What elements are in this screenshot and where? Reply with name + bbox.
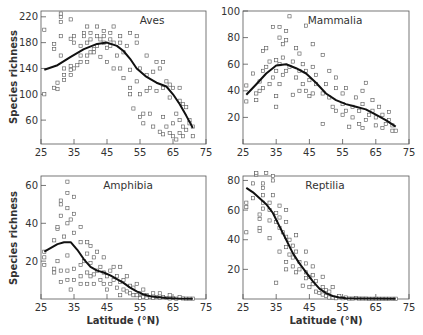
panel-aves: 25354555657560100140180220 xyxy=(19,11,212,158)
data-point xyxy=(261,69,264,72)
data-point xyxy=(391,129,394,132)
data-point xyxy=(66,180,69,183)
y-tick-label: 60 xyxy=(25,180,38,191)
x-tick-label: 65 xyxy=(167,147,180,158)
data-point xyxy=(43,93,46,96)
data-point xyxy=(251,182,254,185)
data-point xyxy=(122,288,125,291)
data-point xyxy=(265,47,268,50)
data-point xyxy=(387,110,390,113)
panel-mammalia: 25354555657520406080100 xyxy=(221,6,415,159)
data-point xyxy=(328,69,331,72)
data-point xyxy=(63,235,66,238)
data-point xyxy=(152,125,155,128)
x-tick-label: 65 xyxy=(369,302,382,313)
data-point xyxy=(171,86,174,89)
data-point xyxy=(92,273,95,276)
data-point xyxy=(288,238,291,241)
data-point xyxy=(175,112,178,115)
data-point xyxy=(278,204,281,207)
data-point xyxy=(56,81,59,84)
data-point xyxy=(371,99,374,102)
data-point xyxy=(119,67,122,70)
data-point xyxy=(275,95,278,98)
data-point xyxy=(158,130,161,133)
data-point xyxy=(268,219,271,222)
data-point xyxy=(361,103,364,106)
data-point xyxy=(66,207,69,210)
data-point xyxy=(245,206,248,209)
data-point xyxy=(132,107,135,110)
data-point xyxy=(79,263,82,266)
panel-title-mammalia: Mammalia xyxy=(308,14,363,26)
y-tick-label: 80 xyxy=(227,32,240,43)
data-point xyxy=(291,244,294,247)
data-point xyxy=(102,256,105,259)
data-point xyxy=(135,41,138,44)
data-point xyxy=(304,277,307,280)
data-point xyxy=(59,214,62,217)
data-point xyxy=(381,126,384,129)
data-point xyxy=(112,25,115,28)
y-tick-label: 220 xyxy=(19,11,38,22)
y-tick-label: 140 xyxy=(19,63,38,74)
data-point xyxy=(304,262,307,265)
data-point xyxy=(86,271,89,274)
data-point xyxy=(69,288,72,291)
data-point xyxy=(86,41,89,44)
x-tick-label: 75 xyxy=(403,147,416,158)
data-point xyxy=(102,29,105,32)
data-point xyxy=(298,89,301,92)
y-axis-label-bottom: Species richness xyxy=(8,191,19,285)
x-tick-label: 55 xyxy=(134,147,147,158)
x-tick-label: 65 xyxy=(369,147,382,158)
data-point xyxy=(261,87,264,90)
data-point xyxy=(191,135,194,138)
data-point xyxy=(158,67,161,70)
data-point xyxy=(314,290,317,293)
x-tick-label: 55 xyxy=(336,147,349,158)
data-point xyxy=(89,275,92,278)
data-point xyxy=(258,213,261,216)
data-point xyxy=(89,244,92,247)
data-point xyxy=(255,171,258,174)
data-point xyxy=(281,73,284,76)
data-point xyxy=(119,35,122,38)
data-point xyxy=(361,126,364,129)
data-point xyxy=(168,131,171,134)
data-point xyxy=(261,207,264,210)
data-point xyxy=(92,47,95,50)
data-point xyxy=(298,52,301,55)
data-point xyxy=(56,260,59,263)
data-point xyxy=(285,260,288,263)
data-point xyxy=(281,43,284,46)
data-point xyxy=(268,237,271,240)
data-point xyxy=(105,46,108,49)
data-point xyxy=(255,92,258,95)
x-tick-label: 65 xyxy=(167,302,180,313)
data-point xyxy=(275,59,278,62)
data-point xyxy=(308,286,311,289)
data-point xyxy=(181,125,184,128)
data-point xyxy=(364,118,367,121)
data-point xyxy=(119,265,122,268)
data-point xyxy=(105,288,108,291)
data-point xyxy=(341,113,344,116)
data-point xyxy=(43,256,46,259)
data-point xyxy=(321,293,324,296)
data-point xyxy=(331,286,334,289)
data-point xyxy=(43,263,46,266)
data-point xyxy=(59,269,62,272)
data-point xyxy=(99,38,102,41)
data-point xyxy=(69,64,72,67)
data-point xyxy=(72,41,75,44)
data-point xyxy=(374,124,377,127)
x-axis-label-right: Latitude (°N) xyxy=(289,315,362,326)
data-point xyxy=(66,254,69,257)
data-point xyxy=(181,135,184,138)
data-point xyxy=(285,29,288,32)
data-point xyxy=(155,60,158,63)
data-point xyxy=(258,226,261,229)
data-point xyxy=(109,38,112,41)
data-point xyxy=(125,290,128,293)
